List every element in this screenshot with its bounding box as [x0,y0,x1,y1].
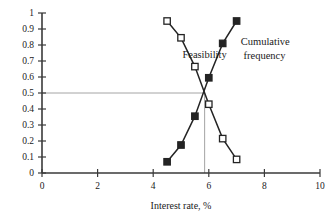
y-tick-label: 0.6 [22,72,34,82]
y-tick-label: 0.9 [22,24,34,34]
x-axis-tick-labels: 0246810 [40,181,325,191]
y-tick-label: 0.3 [22,120,34,130]
y-tick-label: 0.2 [22,136,34,146]
reference-lines [42,93,205,173]
x-tick-label: 0 [40,181,45,191]
y-axis-tick-labels: 00.10.20.30.40.50.60.70.80.91 [22,8,34,178]
data-series [164,18,240,163]
data-point-marker [233,156,239,162]
y-tick-label: 0.4 [22,104,34,114]
x-tick-label: 8 [262,181,267,191]
x-tick-label: 10 [315,181,325,191]
data-point-marker [192,63,198,69]
chart-container: 00.10.20.30.40.50.60.70.80.91 0246810 Fe… [0,0,336,216]
y-tick-label: 0.5 [22,88,34,98]
y-tick-label: 0.8 [22,40,34,50]
data-point-marker [206,75,212,81]
y-tick-label: 0.1 [22,152,34,162]
data-point-marker [220,40,226,46]
y-tick-label: 1 [29,8,34,18]
y-tick-label: 0.7 [22,56,34,66]
data-point-marker [192,113,198,119]
data-series [164,18,240,165]
series-label-cumulative-line2: frequency [244,50,287,61]
data-point-marker [164,159,170,165]
chart-plot-area: 00.10.20.30.40.50.60.70.80.91 0246810 Fe… [0,0,336,216]
x-tick-label: 4 [151,181,156,191]
data-point-marker [233,18,239,24]
y-tick-label: 0 [29,168,34,178]
series-label-feasibility: Feasibility [182,49,227,60]
data-point-marker [206,101,212,107]
data-point-marker [178,35,184,41]
x-tick-label: 2 [95,181,100,191]
data-point-marker [220,135,226,141]
x-tick-label: 6 [206,181,211,191]
data-point-marker [178,142,184,148]
series-label-cumulative-line1: Cumulative [241,36,290,47]
data-point-marker [164,18,170,24]
data-series-group [164,18,240,165]
x-axis-title: Interest rate, % [151,200,212,211]
